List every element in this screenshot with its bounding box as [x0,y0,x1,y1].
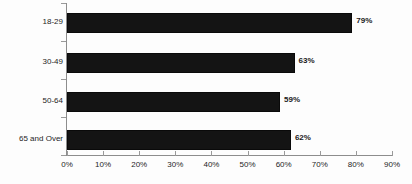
bar-chart: 18-29 30-49 50-64 65 and Over 79% 63% 59… [0,0,412,184]
y-axis-tick [61,155,66,156]
x-axis-tick [284,151,285,156]
category-label-3: 65 and Over [0,134,63,143]
bar-band-1 [67,45,392,80]
category-label-2: 50-64 [0,96,63,105]
x-axis-tick-label-2: 20% [131,160,147,169]
bar-band-3 [67,122,392,157]
x-axis-tick-label-4: 40% [203,160,219,169]
bar-value-label-3: 62% [295,133,311,142]
x-axis-tick [67,151,68,156]
x-axis-tick-label-7: 70% [312,160,328,169]
y-axis-tick [61,3,66,4]
bar-value-label-2: 59% [284,95,300,104]
x-axis-tick-label-9: 90% [384,160,400,169]
category-label-0: 18-29 [0,17,63,26]
bar-3[interactable] [67,130,291,150]
x-axis-tick [103,151,104,156]
x-axis-tick-label-6: 60% [276,160,292,169]
x-axis-tick-label-1: 10% [95,160,111,169]
bar-value-label-0: 79% [356,16,372,25]
x-axis-tick [139,151,140,156]
x-axis-tick-label-5: 50% [240,160,256,169]
x-axis-tick [248,151,249,156]
bar-0[interactable] [67,13,352,33]
x-axis-tick [392,151,393,156]
y-axis-tick [61,79,66,80]
x-axis-tick-label-3: 30% [167,160,183,169]
bar-band-2 [67,84,392,119]
x-axis-tick [320,151,321,156]
bar-2[interactable] [67,92,280,112]
y-axis-tick [61,117,66,118]
x-axis-tick [356,151,357,156]
y-axis-tick [61,41,66,42]
x-axis-tick-label-8: 80% [348,160,364,169]
bar-1[interactable] [67,53,295,73]
bar-value-label-1: 63% [299,56,315,65]
x-axis-tick [175,151,176,156]
x-axis-tick [211,151,212,156]
bar-band-0 [67,5,392,40]
category-label-1: 30-49 [0,57,63,66]
x-axis-tick-label-0: 0% [61,160,73,169]
